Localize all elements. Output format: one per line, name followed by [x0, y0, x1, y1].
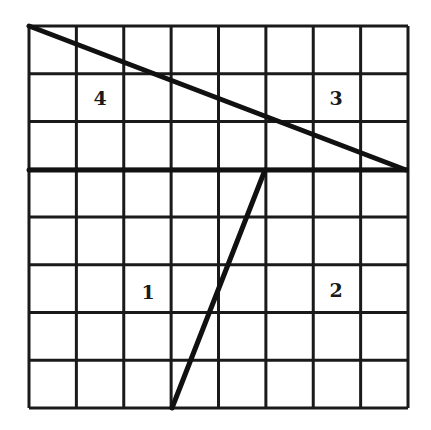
grid-diagram: 4 3 1 2 — [0, 0, 431, 430]
region-label-3: 3 — [329, 87, 342, 109]
region-label-2: 2 — [329, 279, 342, 301]
region-label-4: 4 — [93, 87, 106, 109]
grid-lines — [29, 26, 408, 408]
region-label-1: 1 — [141, 281, 154, 303]
